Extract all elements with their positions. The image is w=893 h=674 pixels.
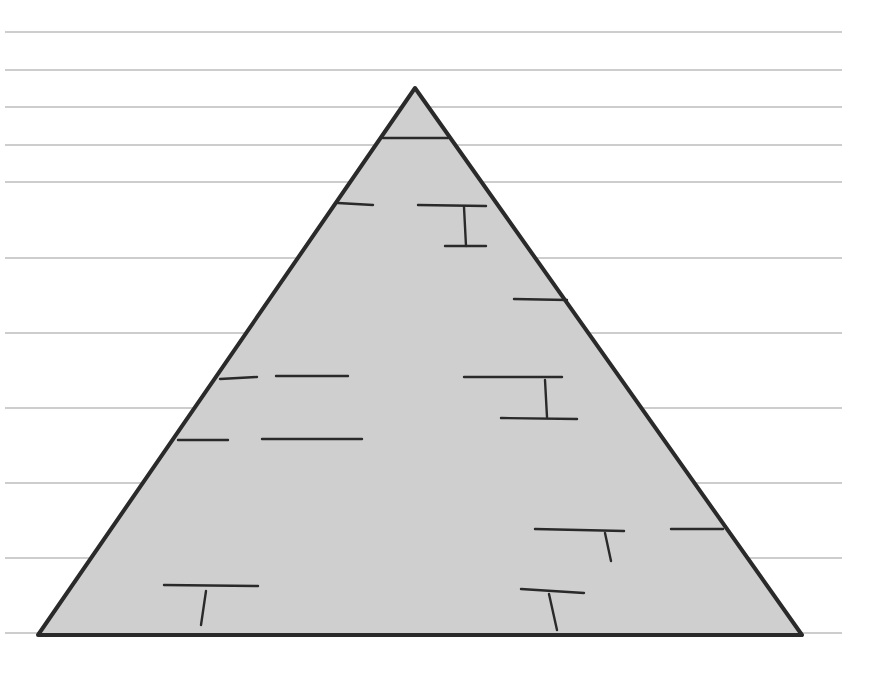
- pyramid-illustration: [0, 0, 893, 674]
- brick-mark: [418, 205, 486, 206]
- pyramid-drawing: [0, 0, 893, 674]
- brick-mark: [514, 299, 567, 300]
- brick-mark: [501, 418, 577, 419]
- pyramid-shape: [38, 88, 802, 635]
- brick-mark: [164, 585, 258, 586]
